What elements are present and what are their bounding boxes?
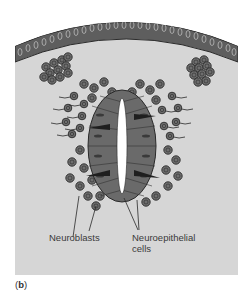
label-neuroepithelial-line1: Neuroepithelial xyxy=(132,232,195,243)
label-neuroepithelial-line2: cells xyxy=(132,243,151,254)
lumen xyxy=(117,98,127,194)
label-neuroblasts: Neuroblasts xyxy=(49,232,100,243)
neural-tube-illustration xyxy=(0,0,252,294)
panel-label: (b) xyxy=(15,279,27,290)
label-neuroepithelial-cells: Neuroepithelial cells xyxy=(132,232,212,254)
panel-label-close: ) xyxy=(24,279,27,290)
